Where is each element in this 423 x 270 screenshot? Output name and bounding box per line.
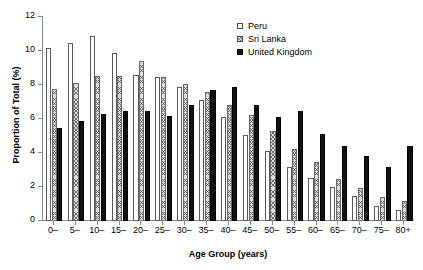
bar-united-kingdom-12: [320, 134, 325, 221]
bar-united-kingdom-14: [364, 156, 369, 221]
bar-peru-5: [155, 77, 160, 222]
y-tick-label: 10: [13, 44, 35, 54]
bar-peru-1: [68, 43, 73, 222]
bar-peru-15: [374, 206, 379, 221]
bar-sri-lanka-7: [205, 92, 210, 221]
legend-item-peru: Peru: [237, 19, 312, 32]
bar-sri-lanka-10: [270, 131, 275, 221]
y-tick: 12: [38, 16, 43, 17]
legend-swatch-icon: [237, 49, 243, 55]
plot-area: 024681012 0–5–10–15–20–25–30–35–40–45–50…: [42, 17, 414, 221]
bar-united-kingdom-10: [276, 117, 281, 221]
bar-united-kingdom-7: [210, 90, 215, 221]
bar-united-kingdom-11: [298, 111, 303, 222]
bar-sri-lanka-6: [183, 84, 188, 221]
bar-peru-9: [243, 135, 248, 221]
bar-sri-lanka-11: [292, 149, 297, 221]
bar-peru-16: [396, 210, 401, 221]
y-tick: 10: [38, 50, 43, 51]
bar-peru-14: [352, 196, 357, 221]
bar-sri-lanka-1: [73, 83, 78, 221]
y-axis-line: [42, 17, 43, 221]
legend-item-sri-lanka: Sri Lanka: [237, 32, 312, 45]
chart-legend: PeruSri LankaUnited Kingdom: [237, 19, 312, 58]
bar-sri-lanka-9: [249, 115, 254, 221]
y-tick-label: 8: [13, 78, 35, 88]
bar-peru-10: [265, 151, 270, 221]
bar-sri-lanka-2: [95, 76, 100, 221]
y-tick: 0: [38, 220, 43, 221]
bar-chart: Proportion of Total (%) 024681012 0–5–10…: [0, 0, 423, 270]
bar-united-kingdom-5: [167, 116, 172, 221]
bar-peru-8: [221, 117, 226, 221]
bar-united-kingdom-6: [189, 105, 194, 221]
bar-united-kingdom-4: [145, 111, 150, 221]
bar-united-kingdom-1: [79, 121, 84, 221]
bar-sri-lanka-3: [117, 76, 122, 221]
legend-swatch-icon: [237, 23, 243, 29]
bar-peru-4: [133, 75, 138, 221]
bar-united-kingdom-3: [123, 111, 128, 222]
x-tick-label: 80+: [389, 225, 417, 235]
bar-sri-lanka-5: [161, 77, 166, 222]
x-axis-title: Age Group (years): [36, 249, 420, 259]
bar-sri-lanka-12: [314, 162, 319, 221]
bar-sri-lanka-0: [52, 89, 57, 221]
bar-sri-lanka-14: [358, 188, 363, 221]
bar-peru-7: [199, 100, 204, 221]
bar-peru-0: [46, 48, 51, 221]
bar-sri-lanka-15: [380, 197, 385, 221]
y-tick-label: 6: [13, 112, 35, 122]
bar-united-kingdom-2: [101, 114, 106, 221]
y-tick: 2: [38, 186, 43, 187]
bar-united-kingdom-8: [232, 87, 237, 221]
y-tick: 8: [38, 84, 43, 85]
bar-united-kingdom-15: [386, 167, 391, 221]
bar-peru-11: [287, 167, 292, 221]
y-tick: 4: [38, 152, 43, 153]
bar-peru-3: [112, 53, 117, 221]
bar-sri-lanka-4: [139, 61, 144, 221]
bar-united-kingdom-0: [57, 128, 62, 221]
bar-sri-lanka-16: [402, 201, 407, 221]
y-tick-label: 0: [13, 214, 35, 224]
y-tick: 6: [38, 118, 43, 119]
bar-peru-13: [330, 187, 335, 221]
bar-peru-12: [308, 178, 313, 221]
bar-peru-6: [177, 87, 182, 221]
bar-united-kingdom-13: [342, 146, 347, 221]
legend-item-united-kingdom: United Kingdom: [237, 45, 312, 58]
bar-sri-lanka-8: [227, 105, 232, 221]
y-tick-label: 4: [13, 146, 35, 156]
legend-label: United Kingdom: [248, 47, 312, 57]
bar-united-kingdom-9: [254, 105, 259, 221]
y-tick-label: 12: [13, 10, 35, 20]
bar-united-kingdom-16: [407, 146, 412, 221]
y-tick-label: 2: [13, 180, 35, 190]
legend-swatch-icon: [237, 36, 243, 42]
bar-sri-lanka-13: [336, 179, 341, 222]
legend-label: Peru: [248, 21, 267, 31]
bar-peru-2: [90, 36, 95, 221]
legend-label: Sri Lanka: [248, 34, 286, 44]
